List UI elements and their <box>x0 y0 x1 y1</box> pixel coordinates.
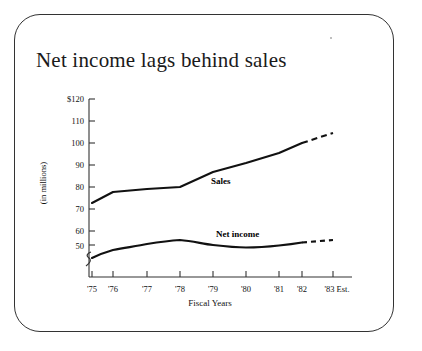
y-axis-ticks <box>89 99 95 245</box>
series-line-sales-projection <box>302 133 333 143</box>
series-line-sales <box>92 143 302 203</box>
x-axis-ticks <box>92 271 333 277</box>
series-line-net-income <box>92 240 302 258</box>
plot-area <box>0 0 422 351</box>
chart-page: Net income lags behind sales (in million… <box>0 0 422 351</box>
series-line-net-income-projection <box>302 240 333 243</box>
